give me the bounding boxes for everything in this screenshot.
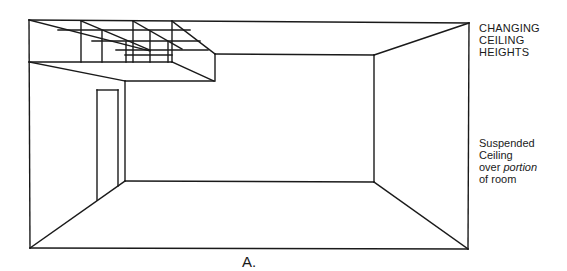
figure-label: A.: [242, 253, 256, 270]
caption-line: Ceiling: [479, 149, 537, 161]
suspended-ceiling-caption: Suspended Ceiling over portion of room: [479, 137, 537, 185]
caption-line: of room: [479, 173, 537, 185]
caption-line: CEILING: [479, 34, 540, 46]
caption-text: over: [479, 161, 503, 173]
caption-line: HEIGHTS: [479, 46, 540, 58]
caption-line: Suspended: [479, 137, 537, 149]
back-wall: [125, 54, 374, 182]
perspective-lines: [30, 23, 469, 249]
caption-line: CHANGING: [479, 22, 540, 34]
door: [97, 90, 118, 200]
caption-italic-text: portion: [503, 161, 537, 173]
caption-line: over portion: [479, 161, 537, 173]
changing-ceiling-heights-caption: CHANGING CEILING HEIGHTS: [479, 22, 540, 58]
suspended-ceiling: [29, 20, 215, 81]
